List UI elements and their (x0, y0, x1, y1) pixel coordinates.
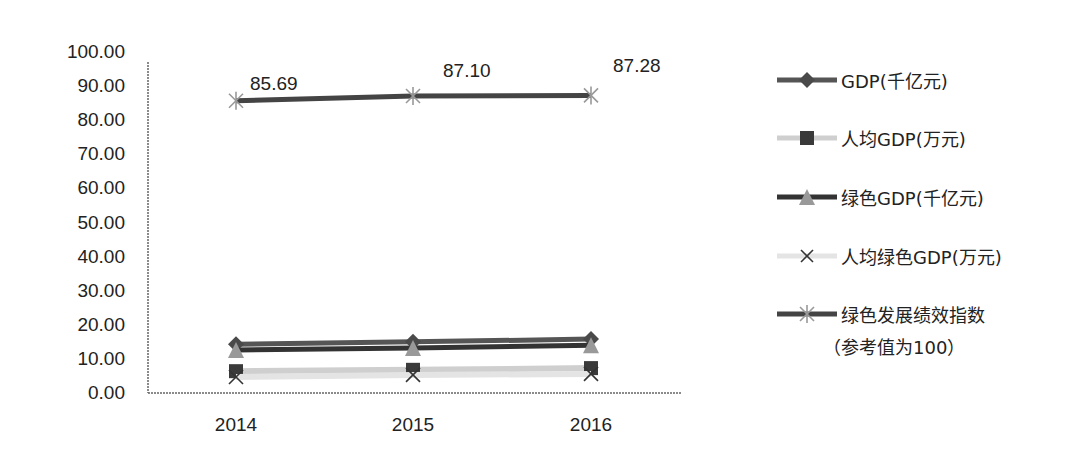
legend-label: 绿色发展绩效指数 (841, 301, 985, 327)
diamond-marker-icon (775, 68, 839, 92)
legend-label: 绿色GDP(千亿元) (841, 184, 984, 210)
series-layer (228, 86, 599, 384)
legend-item-green-index[interactable]: 绿色发展绩效指数 (775, 301, 985, 327)
legend-label: GDP(千亿元) (841, 67, 948, 93)
legend-label: 人均绿色GDP(万元) (841, 243, 1002, 269)
data-label: 85.69 (250, 73, 298, 95)
x-marker-icon (775, 244, 839, 268)
legend-item-gdp[interactable]: GDP(千亿元) (775, 67, 948, 93)
triangle-marker-icon (775, 185, 839, 209)
data-label: 87.28 (613, 55, 661, 77)
legend-item-per-capita-gdp[interactable]: 人均GDP(万元) (775, 125, 966, 151)
legend-label: 人均GDP(万元) (841, 125, 966, 151)
square-marker-icon (775, 126, 839, 150)
legend-item-per-capita-green-gdp[interactable]: 人均绿色GDP(万元) (775, 243, 1002, 269)
legend-sublabel: （参考值为100） (823, 333, 965, 359)
data-label: 87.10 (443, 60, 491, 82)
asterisk-marker-icon (775, 302, 839, 326)
legend-item-green-gdp[interactable]: 绿色GDP(千亿元) (775, 184, 984, 210)
